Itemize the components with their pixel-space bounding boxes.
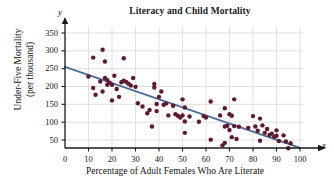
data-point [274,128,278,132]
data-point [225,124,229,128]
x-tick-label: 90 [265,154,289,164]
data-point [136,101,140,105]
x-tick-label: 40 [147,154,171,164]
data-point [159,89,163,93]
y-tick-label: 50 [32,135,58,145]
x-tick-label: 10 [77,154,101,164]
data-point [166,113,170,117]
x-axis-letter: x [322,140,326,150]
data-point [171,104,175,108]
data-point [86,74,90,78]
y-axis-letter: y [58,7,62,17]
data-point [100,48,104,52]
data-point [140,104,144,108]
data-point [209,137,213,141]
x-tick-label: 20 [100,154,124,164]
axes [62,17,327,152]
data-point [187,114,191,118]
data-point [91,55,95,59]
data-point [230,114,234,118]
x-tick-label: 30 [124,154,148,164]
data-point [154,102,158,106]
data-point [98,79,102,83]
data-point [180,113,184,117]
y-tick-label: 200 [32,81,58,91]
data-point [265,127,269,131]
data-point [197,120,201,124]
data-point [284,139,288,143]
data-point [100,89,104,93]
data-point [256,129,260,133]
data-point [112,74,116,78]
data-point [183,119,187,123]
y-tick-label: 100 [32,117,58,127]
data-point [164,101,168,105]
data-point [223,106,227,110]
y-tick-label: 250 [32,63,58,73]
data-point [232,124,236,128]
data-point [246,126,250,130]
data-point [110,98,114,102]
data-point [230,135,234,139]
data-point [263,131,267,135]
y-axis-arrow [62,17,68,24]
data-point [218,113,222,117]
data-point [103,59,107,63]
data-point [117,95,121,99]
x-tick-label: 100 [288,154,312,164]
data-point [281,133,285,137]
data-point [180,97,184,101]
y-axis-title-line1: Under-Five Mortality [13,29,23,111]
data-point [209,99,213,103]
y-tick-label: 150 [32,99,58,109]
data-point [133,85,137,89]
data-point [253,124,257,128]
data-point [232,97,236,101]
data-point [122,56,126,60]
x-tick-label: 70 [218,154,242,164]
data-point [288,141,292,145]
y-tick-label: 350 [32,28,58,38]
data-point [237,125,241,129]
data-point [91,86,95,90]
x-tick-label: 80 [241,154,265,164]
data-point [110,83,114,87]
data-point [274,134,278,138]
data-point [129,83,133,87]
data-point [131,76,135,80]
data-point [223,141,227,145]
x-tick-label: 0 [53,154,77,164]
chart-figure: Literacy and Child Mortality y x Percent… [0,0,334,192]
data-point [277,139,281,143]
data-point [204,115,208,119]
data-point [183,131,187,135]
data-point [258,116,262,120]
x-tick-label: 50 [171,154,195,164]
data-point [227,128,231,132]
data-point [152,85,156,89]
data-point [93,93,97,97]
y-tick-label: 300 [32,45,58,55]
x-tick-label: 60 [194,154,218,164]
data-point [150,124,154,128]
data-point [157,95,161,99]
data-point [154,109,158,113]
data-point [147,108,151,112]
data-point [183,105,187,109]
data-point [115,87,119,91]
data-point [234,137,238,141]
x-axis-title: Percentage of Adult Females Who Are Lite… [30,166,320,177]
data-point [260,123,264,127]
data-point [251,114,255,118]
data-point [258,139,262,143]
